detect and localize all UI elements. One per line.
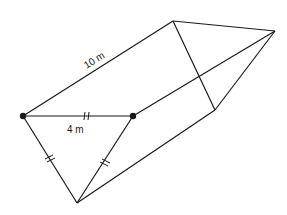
side-label: 4 m — [67, 124, 84, 135]
edge-ef — [215, 31, 275, 110]
prism-diagram: 10 m 4 m — [0, 0, 287, 215]
edge-bc — [77, 116, 133, 203]
lateral-edges — [23, 21, 275, 203]
length-label: 10 m — [82, 49, 107, 70]
vertex-dot — [20, 113, 26, 119]
vertex-dot — [130, 113, 136, 119]
tick-mark — [88, 112, 89, 120]
edge-ad — [23, 21, 173, 116]
edge-be — [133, 31, 275, 116]
tick-mark — [84, 112, 85, 120]
edge-df — [173, 21, 215, 110]
edge-cf — [77, 110, 215, 203]
tick-marks — [45, 112, 110, 166]
back-triangle — [173, 21, 275, 110]
edge-de — [173, 21, 275, 31]
